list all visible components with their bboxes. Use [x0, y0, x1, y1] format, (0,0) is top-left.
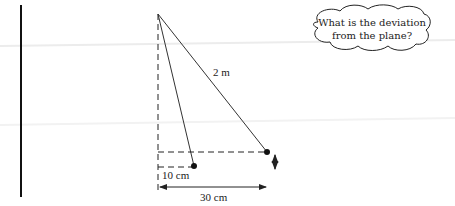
thought-bubble-line2: from the plane?: [332, 30, 412, 41]
small-offset-label: 10 cm: [162, 169, 190, 181]
background-streak: [0, 118, 455, 125]
large-offset-label: 30 cm: [200, 191, 228, 203]
string-length-label: 2 m: [213, 66, 230, 78]
pendulum-diagram: 2 m 10 cm 30 cm What is the deviation fr…: [0, 0, 455, 206]
bob-small-swing: [191, 163, 197, 169]
thought-bubble-line1: What is the deviation: [318, 17, 426, 28]
bob-large-swing: [264, 149, 270, 155]
